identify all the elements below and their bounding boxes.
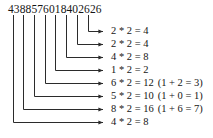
equation-expression: 8 * 2 = 16 — [111, 103, 154, 114]
equation-row: 8 * 2 = 16(1 + 6 = 7) — [111, 103, 203, 114]
equation-row: 1 * 2 = 2 — [111, 64, 148, 75]
equation-expression: 1 * 2 = 2 — [111, 64, 148, 75]
equation-expression: 2 * 2 = 4 — [111, 25, 148, 36]
equation-digit-sum-note: (1 + 2 = 3) — [158, 77, 203, 88]
equation-digit-sum-note: (1 + 6 = 7) — [158, 103, 203, 114]
equation-expression: 4 * 2 = 8 — [111, 116, 148, 127]
equation-row: 4 * 2 = 8 — [111, 51, 148, 62]
equation-expression: 4 * 2 = 8 — [111, 51, 148, 62]
equation-digit-sum-note: (1 + 0 = 1) — [158, 90, 203, 101]
equation-list: 2 * 2 = 42 * 2 = 44 * 2 = 81 * 2 = 26 * … — [0, 0, 213, 138]
equation-row: 4 * 2 = 8 — [111, 116, 148, 127]
luhn-doubling-figure: 4388576018402626 2 * 2 = 42 * 2 = 44 * 2… — [0, 0, 213, 138]
equation-row: 5 * 2 = 10(1 + 0 = 1) — [111, 90, 203, 101]
equation-expression: 2 * 2 = 4 — [111, 38, 148, 49]
equation-row: 6 * 2 = 12(1 + 2 = 3) — [111, 77, 203, 88]
equation-expression: 5 * 2 = 10 — [111, 90, 154, 101]
equation-row: 2 * 2 = 4 — [111, 38, 148, 49]
equation-expression: 6 * 2 = 12 — [111, 77, 154, 88]
equation-row: 2 * 2 = 4 — [111, 25, 148, 36]
